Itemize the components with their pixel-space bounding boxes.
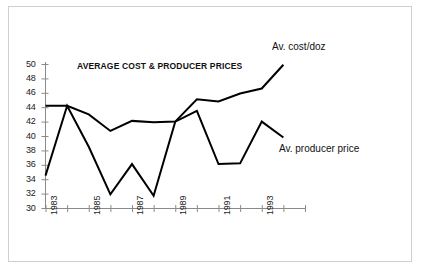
series-annotation-cost: Av. cost/doz (272, 41, 326, 52)
y-tick-label: 46 (20, 88, 36, 97)
y-tick-label: 30 (20, 204, 36, 213)
series-line-producer-price (46, 106, 284, 196)
x-tick-label: 1987 (136, 196, 145, 215)
y-tick-label: 36 (20, 160, 36, 169)
y-tick-label: 42 (20, 117, 36, 126)
x-tick-label: 1983 (50, 196, 59, 215)
y-tick-label: 44 (20, 103, 36, 112)
y-tick-label: 48 (20, 74, 36, 83)
x-tick-label: 1989 (179, 196, 188, 215)
x-tick-label: 1993 (266, 196, 275, 215)
chart-series-layer (46, 65, 284, 196)
series-annotation-producer-price: Av. producer price (279, 143, 359, 154)
chart-title: AVERAGE COST & PRODUCER PRICES (77, 61, 242, 71)
y-tick-label: 50 (20, 60, 36, 69)
x-tick-label: 1985 (93, 196, 102, 215)
y-tick-label: 32 (20, 189, 36, 198)
line-chart-plot (0, 0, 424, 275)
y-tick-label: 40 (20, 132, 36, 141)
x-tick-label: 1991 (223, 196, 232, 215)
y-tick-label: 34 (20, 175, 36, 184)
y-tick-label: 38 (20, 146, 36, 155)
series-line-cost (46, 65, 284, 131)
